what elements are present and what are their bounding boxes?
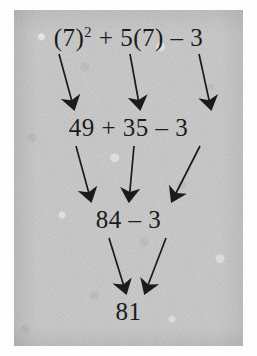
- operator-minus-second: –: [156, 114, 169, 141]
- operator-plus-second: +: [101, 114, 116, 141]
- term-eighty-one: 81: [116, 298, 142, 325]
- arrow-group-step-2-to-result: [109, 238, 166, 293]
- row-expression: (7)2 + 5(7) – 3: [14, 24, 243, 52]
- arrow-84-to-81: [109, 238, 126, 293]
- arrow-three-to-three-second: [172, 146, 200, 201]
- operator-plus-first: +: [99, 24, 114, 51]
- term-seven-squared-base: (7): [54, 24, 85, 51]
- arrow-group-step-1-to-step-2: [76, 146, 200, 201]
- scan-vignette: [14, 10, 243, 346]
- term-three-third: 3: [148, 206, 161, 233]
- operator-minus-first: –: [171, 24, 184, 51]
- arrow-group-expression-to-step-1: [59, 54, 211, 109]
- exponent-two: 2: [84, 24, 92, 40]
- operator-minus-third: –: [129, 206, 142, 233]
- paper-grain-texture: [14, 10, 243, 346]
- figure-canvas: (7)2 + 5(7) – 3 49 + 35 – 3 84 – 3 81: [0, 0, 257, 356]
- row-result: 81: [14, 298, 243, 326]
- scanned-page: (7)2 + 5(7) – 3 49 + 35 – 3 84 – 3 81: [14, 10, 243, 346]
- term-seven-squared: (7)2: [54, 24, 92, 51]
- term-three-second: 3: [175, 114, 188, 141]
- term-thirty-five: 35: [123, 114, 149, 141]
- arrow-power-to-49: [59, 54, 74, 109]
- term-three-first: 3: [190, 24, 203, 51]
- row-step-1: 49 + 35 – 3: [14, 114, 243, 142]
- arrow-49-to-84: [76, 146, 91, 201]
- arrow-product-to-35: [130, 54, 140, 109]
- arrow-35-to-84: [129, 146, 134, 201]
- term-forty-nine: 49: [69, 114, 95, 141]
- arrow-layer: [14, 10, 243, 346]
- arrow-three-to-81: [145, 238, 166, 293]
- row-step-2: 84 – 3: [14, 206, 243, 234]
- term-five-times-seven: 5(7): [120, 24, 164, 51]
- arrow-three-to-three-first: [199, 54, 211, 109]
- term-eighty-four: 84: [96, 206, 122, 233]
